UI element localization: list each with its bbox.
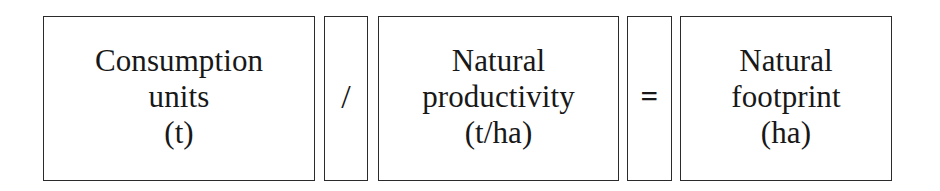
term-unit-label: (ha)	[761, 115, 811, 151]
term-line-2: footprint	[731, 79, 840, 115]
term-unit-label: (t/ha)	[465, 115, 533, 151]
term-line-1: Natural	[739, 43, 833, 79]
term-line-1: Natural	[452, 43, 546, 79]
operator-box-equals: =	[627, 16, 672, 181]
term-line-2: productivity	[422, 79, 575, 115]
equation-diagram: Consumption units (t) / Natural producti…	[0, 0, 940, 191]
term-box-natural-footprint: Natural footprint (ha)	[680, 16, 892, 181]
term-line-1: Consumption	[95, 43, 263, 79]
operator-box-division: /	[324, 16, 368, 181]
term-unit-label: (t)	[164, 115, 194, 151]
term-line-2: units	[149, 79, 210, 115]
equals-sign-icon: =	[641, 81, 659, 112]
term-box-consumption-units: Consumption units (t)	[43, 16, 315, 181]
division-slash-icon: /	[341, 80, 351, 114]
term-box-natural-productivity: Natural productivity (t/ha)	[378, 16, 619, 181]
